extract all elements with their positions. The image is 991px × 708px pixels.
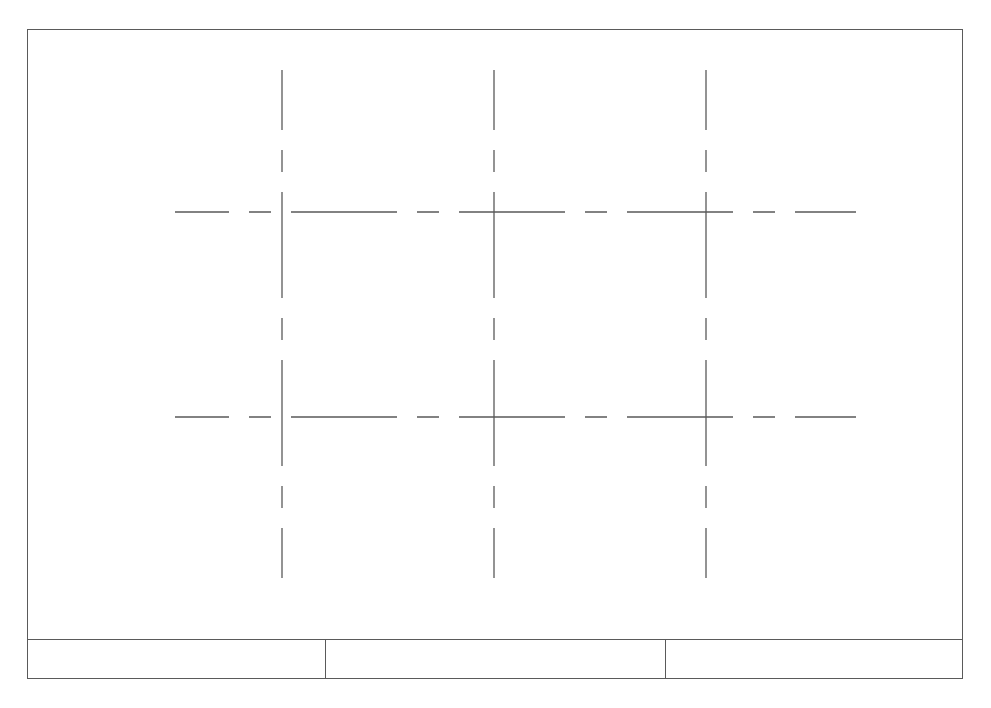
title-block-cell-left: [27, 640, 325, 679]
title-block-cell-center: [325, 640, 665, 679]
drawing-canvas: [0, 0, 991, 708]
title-block: [27, 639, 963, 679]
title-block-cell-right: [665, 640, 963, 679]
drawing-frame: [27, 29, 963, 679]
